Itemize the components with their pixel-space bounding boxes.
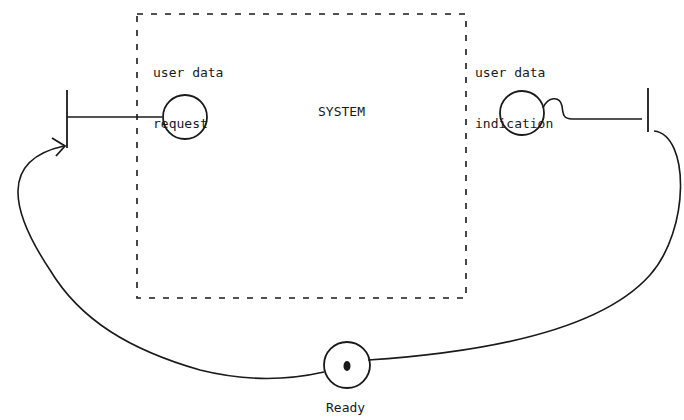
arc-indication-to-transition: [543, 99, 642, 119]
ready-label: Ready: [326, 399, 365, 416]
petri-net-diagram: user data request user data indication S…: [0, 0, 684, 420]
request-label: user data request: [153, 30, 223, 166]
system-label: SYSTEM: [318, 103, 365, 120]
indication-label: user data indication: [475, 30, 553, 166]
token-dot-icon: [344, 361, 351, 371]
diagram-graphics: [0, 0, 684, 420]
indication-label-line2: indication: [475, 115, 553, 132]
indication-label-line1: user data: [475, 64, 553, 81]
request-label-line1: user data: [153, 64, 223, 81]
request-label-line2: request: [153, 115, 223, 132]
arc-ready-to-transition: [18, 146, 324, 379]
